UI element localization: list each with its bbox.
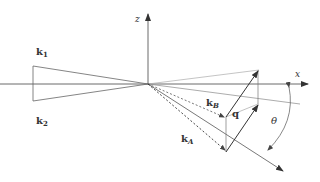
q-label: q (232, 108, 239, 119)
incident-beam-triangle (33, 66, 148, 101)
kA-label: kA (181, 133, 194, 146)
q-vector-upper (226, 71, 258, 117)
kB-label: kB (206, 97, 219, 110)
k2-label: k2 (36, 115, 48, 128)
scattering-diagram: z x k1 k2 kB kA q θ (0, 0, 320, 182)
k1-label: k1 (36, 46, 48, 59)
z-axis-label: z (134, 14, 140, 24)
theta-label: θ (271, 115, 277, 126)
outgoing-beam-upper (148, 70, 259, 84)
scattered-direction (148, 84, 283, 171)
x-axis-label: x (295, 69, 300, 79)
